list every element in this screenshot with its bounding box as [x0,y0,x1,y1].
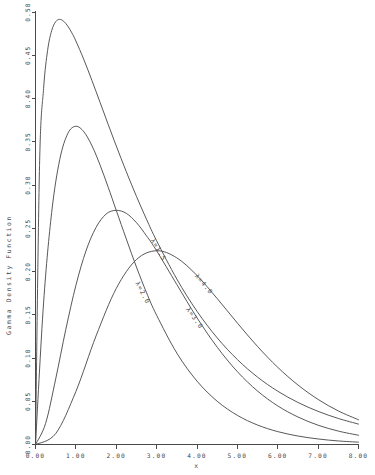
y-tick-label: 0.15 [24,305,31,325]
x-tick-label: 4.00 [187,452,207,459]
curve-label-λ=4.0: λ=4.0 [193,272,215,296]
x-tick-label: 7.00 [308,452,328,459]
curve-label-λ=1.5: λ=1.5 [149,237,168,262]
y-tick-label: 0.40 [24,89,31,109]
x-axis-tick-labels: 0.001.002.003.004.005.006.007.008.00 [26,452,369,459]
curve-label-λ=2.0: λ=2.0 [134,280,152,306]
x-tick-label: 3.00 [147,452,167,459]
x-tick-label: 0.00 [26,452,46,459]
x-tick-label: 1.00 [66,452,86,459]
y-axis-tick-labels: 0.000.050.100.150.200.250.300.350.400.45… [24,2,31,454]
x-axis-tick-marks [36,445,359,449]
y-tick-label: 0.30 [24,175,31,195]
chart-canvas: 0.000.050.100.150.200.250.300.350.400.45… [0,0,375,475]
x-tick-label: 5.00 [228,452,248,459]
y-tick-label: 0.25 [24,218,31,238]
y-tick-label: 0.05 [24,391,31,411]
x-tick-label: 2.00 [106,452,126,459]
x-tick-label: 8.00 [349,452,369,459]
gamma-density-figure: 0.000.050.100.150.200.250.300.350.400.45… [0,0,375,475]
x-tick-label: 6.00 [268,452,288,459]
x-axis-title: x [194,462,199,470]
curve-series-labels: λ=4.0λ=3.0λ=2.0λ=1.5 [134,237,215,331]
y-axis-tick-marks [32,12,36,445]
y-tick-label: 0.50 [24,2,31,22]
y-axis-title: Gamma Density Function [5,215,13,335]
data-curve-λ=2.0 [36,126,359,444]
y-tick-label: 0.35 [24,132,31,152]
y-tick-label: 0.20 [24,262,31,282]
y-tick-label: 0.10 [24,348,31,368]
y-tick-label: 0.45 [24,45,31,65]
data-curves [36,19,359,444]
